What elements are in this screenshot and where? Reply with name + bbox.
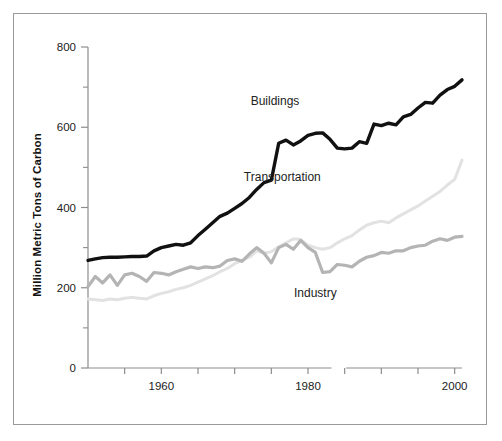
- series-label-industry: Industry: [294, 286, 337, 300]
- y-tick-label: 600: [57, 121, 76, 133]
- chart-page: Million Metric Tons of Carbon 0200400600…: [0, 0, 502, 441]
- x-tick-label: 2000: [442, 380, 468, 392]
- y-tick-label: 800: [57, 41, 76, 53]
- series-label-buildings: Buildings: [251, 94, 300, 108]
- series-line-industry: [88, 236, 462, 286]
- y-tick-label: 200: [57, 282, 76, 294]
- series-label-transportation: Transportation: [244, 170, 321, 184]
- series-layer: [88, 80, 462, 301]
- line-chart: 0200400600800196019802000 BuildingsTrans…: [0, 0, 502, 441]
- x-tick-label: 1980: [295, 380, 321, 392]
- x-tick-label: 1960: [149, 380, 175, 392]
- y-tick-label: 0: [70, 362, 76, 374]
- y-tick-label: 400: [57, 202, 76, 214]
